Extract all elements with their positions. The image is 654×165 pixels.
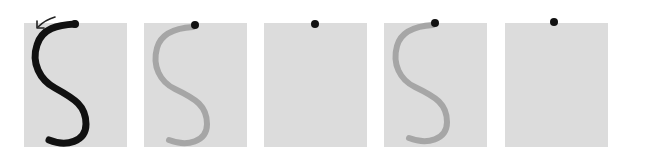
s-stroke-solid <box>35 24 86 143</box>
start-dot-icon <box>431 19 439 27</box>
s-stroke-faded <box>396 25 447 141</box>
start-dot-icon <box>311 20 319 28</box>
s-stroke-faded <box>156 27 207 143</box>
start-dot-icon <box>71 20 79 28</box>
stroke-overlay <box>0 0 654 165</box>
start-dot-icon <box>550 18 558 26</box>
start-dot-icon <box>191 21 199 29</box>
